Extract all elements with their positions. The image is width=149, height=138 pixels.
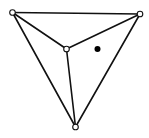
edge-center-bottom — [67, 49, 76, 127]
triangle-diagram — [0, 0, 149, 138]
edge-top-right-bottom — [76, 14, 141, 127]
points-group — [95, 46, 101, 52]
edge-top-left-top-right — [13, 13, 141, 15]
vertex-top-left — [10, 10, 16, 16]
edge-top-left-bottom — [13, 13, 76, 128]
edges-group — [13, 13, 141, 128]
vertex-bottom — [73, 124, 79, 130]
vertex-center — [64, 46, 70, 52]
vertex-top-right — [137, 11, 143, 17]
query-point — [95, 46, 101, 52]
edge-top-left-center — [13, 13, 67, 50]
edge-top-right-center — [67, 14, 141, 49]
vertices-group — [10, 10, 143, 130]
